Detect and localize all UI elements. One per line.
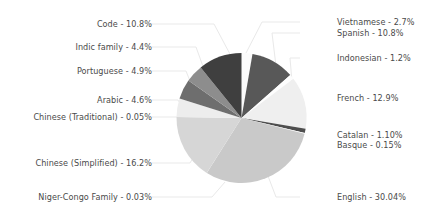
leader-line-english: [268, 176, 300, 197]
leader-line-portuguese: [152, 71, 192, 86]
pie-label-french: French - 12.9%: [337, 93, 398, 103]
pie-label-vietnamese: Vietnamese - 2.7%: [337, 17, 414, 27]
pie-label-indic-family: Indic family - 4.4%: [76, 42, 153, 52]
leader-line-spanish: [272, 33, 300, 66]
pie-label-niger-congo-family: Niger-Congo Family - 0.03%: [38, 192, 152, 202]
leader-line-code: [150, 24, 231, 56]
pie-label-arabic: Arabic - 4.6%: [97, 95, 152, 105]
pie-label-spanish: Spanish - 10.8%: [337, 28, 404, 38]
pie-label-english: English - 30.04%: [337, 192, 406, 202]
leader-line-arabic: [152, 100, 181, 105]
pie-chart-figure: Code - 10.8% Indic family - 4.4% Portugu…: [0, 0, 437, 220]
pie-label-catalan: Catalan - 1.10%: [337, 130, 403, 140]
pie-label-chinese-traditional: Chinese (Traditional) - 0.05%: [33, 112, 152, 122]
pie-label-portuguese: Portuguese - 4.9%: [77, 66, 152, 76]
pie-label-code: Code - 10.8%: [97, 19, 152, 29]
pie-label-chinese-simplified: Chinese (Simplified) - 16.2%: [35, 158, 152, 168]
pie-label-indonesian: Indonesian - 1.2%: [337, 53, 411, 63]
pie-label-basque: Basque - 0.15%: [337, 140, 401, 150]
pie-slice-group: [177, 53, 307, 183]
leader-line-indic: [152, 47, 205, 72]
leader-line-niger-congo: [152, 182, 225, 197]
